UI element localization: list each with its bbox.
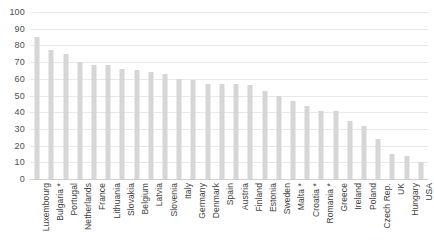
x-tick-label: Belgium	[140, 183, 150, 214]
x-tick-label: Netherlands	[83, 183, 93, 230]
bar[interactable]	[163, 74, 168, 179]
bar[interactable]	[376, 139, 381, 179]
bar[interactable]	[362, 126, 367, 179]
bars-layer	[30, 12, 428, 179]
bar[interactable]	[63, 54, 68, 179]
x-tick-label: Sweden	[282, 183, 292, 214]
bar-slot	[58, 12, 72, 179]
bar-slot	[371, 12, 385, 179]
x-tick-label: Finland	[254, 183, 264, 212]
bar[interactable]	[205, 84, 210, 179]
bar-slot	[130, 12, 144, 179]
bar[interactable]	[290, 101, 295, 179]
bar-slot	[144, 12, 158, 179]
bar[interactable]	[134, 70, 139, 179]
bar-slot	[343, 12, 357, 179]
x-tick-label: Greece	[339, 183, 349, 211]
y-tick-label: 60	[15, 74, 25, 84]
bar[interactable]	[148, 72, 153, 179]
bar-slot	[215, 12, 229, 179]
x-tick-label: Slovenia	[169, 183, 179, 216]
bar-slot	[229, 12, 243, 179]
bar-slot	[385, 12, 399, 179]
x-tick-label: Germany	[197, 183, 207, 219]
x-tick-label: UK	[396, 183, 406, 195]
bar-slot	[243, 12, 257, 179]
bar[interactable]	[262, 91, 267, 180]
bar-slot	[357, 12, 371, 179]
x-tick-label: Ireland	[353, 183, 363, 210]
y-tick-label: 80	[15, 40, 25, 50]
x-tick-label: Croatia *	[311, 183, 321, 217]
bar[interactable]	[77, 62, 82, 179]
x-tick-label: Czech Rep.	[382, 183, 392, 228]
bar[interactable]	[91, 65, 96, 179]
y-tick-label: 40	[15, 107, 25, 117]
x-tick-label: Malta *	[296, 183, 306, 210]
bar-slot	[414, 12, 428, 179]
bar-slot	[400, 12, 414, 179]
gridline	[30, 179, 428, 180]
x-axis: LuxembourgBulgaria *PortugalNetherlandsF…	[30, 181, 428, 249]
x-tick-label: Portugal	[69, 183, 79, 215]
bar-slot	[272, 12, 286, 179]
bar[interactable]	[191, 80, 196, 179]
y-tick-label: 50	[15, 91, 25, 101]
y-tick-label: 70	[15, 57, 25, 67]
y-tick-label: 10	[15, 157, 25, 167]
plot-area	[30, 12, 428, 179]
bar-slot	[158, 12, 172, 179]
x-tick-label: Bulgaria *	[55, 183, 65, 221]
y-axis: 1009080706050403020100	[0, 0, 28, 191]
bar-slot	[300, 12, 314, 179]
bar-slot	[201, 12, 215, 179]
bar[interactable]	[347, 121, 352, 179]
x-tick-label: Estonia	[268, 183, 278, 212]
x-tick-label: Italy	[183, 183, 193, 199]
x-tick-label: Spain	[225, 183, 235, 205]
y-tick-label: 0	[20, 174, 25, 184]
bar-slot	[186, 12, 200, 179]
bar[interactable]	[404, 156, 409, 179]
bar[interactable]	[219, 84, 224, 179]
bar-slot	[115, 12, 129, 179]
y-tick-label: 30	[15, 124, 25, 134]
bar[interactable]	[49, 50, 54, 179]
x-tick-label: Poland	[368, 183, 378, 210]
bar[interactable]	[276, 96, 281, 180]
bar[interactable]	[305, 106, 310, 179]
bar-slot	[87, 12, 101, 179]
bar-slot	[314, 12, 328, 179]
bar-slot	[73, 12, 87, 179]
x-tick-label: Latvia	[154, 183, 164, 206]
bar[interactable]	[120, 69, 125, 179]
bar-slot	[257, 12, 271, 179]
y-tick-label: 100	[9, 7, 25, 17]
bar[interactable]	[390, 154, 395, 179]
bar[interactable]	[333, 111, 338, 179]
x-tick-label: Romania *	[325, 183, 335, 224]
bar-slot	[329, 12, 343, 179]
x-tick-label: USA	[424, 183, 434, 201]
bar-chart: 1009080706050403020100 LuxembourgBulgari…	[0, 0, 434, 249]
bar[interactable]	[234, 84, 239, 179]
bar[interactable]	[319, 111, 324, 179]
y-tick-label: 90	[15, 24, 25, 34]
bar-slot	[44, 12, 58, 179]
bar-slot	[286, 12, 300, 179]
x-tick-label: Lithuania	[112, 183, 122, 218]
x-tick-label: Denmark	[211, 183, 221, 218]
x-tick-label: Austria	[240, 183, 250, 210]
x-tick-label: Slovakia	[126, 183, 136, 216]
bar-slot	[172, 12, 186, 179]
bar[interactable]	[106, 65, 111, 179]
x-tick-label: France	[97, 183, 107, 210]
y-tick-label: 20	[15, 141, 25, 151]
bar-slot	[101, 12, 115, 179]
bar[interactable]	[35, 37, 40, 179]
bar-slot	[30, 12, 44, 179]
bar[interactable]	[418, 162, 423, 179]
x-tick-label: Hungary	[410, 183, 420, 216]
bar[interactable]	[248, 85, 253, 179]
bar[interactable]	[177, 79, 182, 179]
